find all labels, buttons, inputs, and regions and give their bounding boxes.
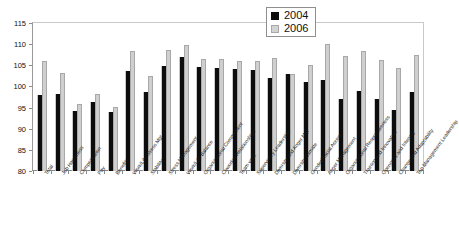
y-axis-tick-label: 110 — [14, 40, 26, 49]
y-axis-tick-label: 95 — [18, 103, 26, 112]
x-axis-labels: TotalJob HappinessCompensationPayBenefit… — [0, 172, 432, 250]
gray-square-swatch-icon — [271, 25, 279, 33]
bar-group — [246, 23, 264, 171]
legend: 2004 2006 — [266, 7, 316, 37]
bar-2006 — [113, 107, 118, 171]
bar-group — [157, 23, 175, 171]
y-axis-tick-label: 105 — [13, 61, 26, 70]
black-square-swatch-icon — [271, 12, 279, 20]
y-axis-tick-mark — [29, 65, 32, 66]
bar-2006 — [95, 94, 100, 171]
bar-2006 — [42, 61, 47, 171]
y-axis-tick-label: 115 — [14, 19, 26, 28]
legend-label-2006: 2006 — [284, 23, 308, 34]
y-axis-tick-mark — [29, 129, 32, 130]
legend-label-2004: 2004 — [284, 10, 308, 21]
y-axis-tick-mark — [29, 171, 32, 172]
bar-group — [33, 23, 51, 171]
bar-group — [51, 23, 69, 171]
y-axis-tick-mark — [29, 23, 32, 24]
y-axis-tick-mark — [29, 108, 32, 109]
y-axis: 80859095100105110115 — [0, 22, 30, 171]
bar-2006 — [166, 50, 171, 171]
bar-2006 — [130, 51, 135, 171]
y-axis-tick-label: 90 — [18, 124, 26, 133]
y-axis-tick-label: 85 — [18, 145, 26, 154]
legend-item-2006: 2006 — [271, 23, 308, 34]
y-axis-tick-label: 100 — [13, 82, 26, 91]
bar-group — [104, 23, 122, 171]
y-axis-tick-mark — [29, 86, 32, 87]
y-axis-tick-mark — [29, 44, 32, 45]
legend-item-2004: 2004 — [271, 10, 308, 21]
bar-2006 — [77, 104, 82, 171]
bar-2006 — [60, 73, 65, 171]
y-axis-tick-mark — [29, 150, 32, 151]
bar-group — [122, 23, 140, 171]
